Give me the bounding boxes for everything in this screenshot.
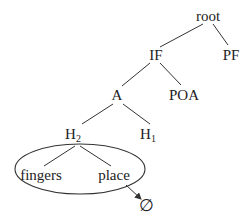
node-fingers: fingers (20, 167, 62, 183)
edge-a-h1 (123, 104, 150, 124)
node-pf: PF (223, 47, 240, 63)
node-h1: H1 (140, 126, 156, 144)
edge-h2-fingers (44, 146, 75, 166)
node-poa: POA (169, 87, 199, 103)
edge-a-h2 (82, 104, 113, 124)
edge-root-if (160, 24, 203, 47)
node-if: IF (149, 47, 162, 63)
node-h2-label: H (65, 126, 76, 142)
node-h2: H2 (65, 126, 81, 144)
edge-if-poa (160, 63, 181, 85)
node-root: root (196, 8, 221, 24)
node-h2-subscript: 2 (76, 133, 81, 144)
node-h1-label: H (140, 126, 151, 142)
node-h1-subscript: 1 (151, 133, 156, 144)
null-symbol-icon: ∅ (139, 196, 154, 215)
edge-if-a (122, 63, 150, 86)
feature-geometry-tree: root IF PF A POA H2 H1 fingers place ∅ (0, 0, 244, 217)
edge-h2-place (80, 146, 111, 166)
node-a: A (112, 87, 123, 103)
edge-root-pf (213, 24, 228, 45)
node-place: place (98, 167, 130, 183)
